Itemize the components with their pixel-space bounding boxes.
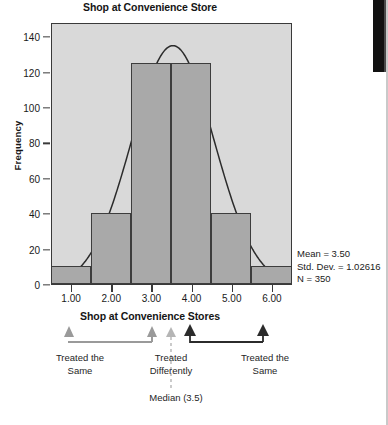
bottom-axis-title: Shop at Convenience Stores bbox=[0, 310, 300, 322]
x-tick-label: 3.00 bbox=[131, 293, 171, 304]
y-tick-mark bbox=[43, 72, 50, 73]
y-tick-label: 20 bbox=[6, 244, 40, 255]
histogram-bar bbox=[171, 63, 211, 284]
stat-mean: Mean = 3.50 bbox=[297, 248, 381, 261]
y-tick-mark bbox=[43, 37, 50, 38]
annotation-right-line1: Treated the bbox=[210, 352, 320, 365]
x-tick-mark bbox=[71, 285, 72, 292]
y-tick-label: 120 bbox=[6, 67, 40, 78]
stat-n: N = 350 bbox=[297, 273, 381, 286]
x-tick-mark bbox=[151, 285, 152, 292]
x-tick-mark bbox=[232, 285, 233, 292]
y-tick-mark bbox=[43, 107, 50, 108]
x-tick-label: 1.00 bbox=[51, 293, 91, 304]
histogram-bar bbox=[251, 266, 291, 284]
stat-stddev: Std. Dev. = 1.02616 bbox=[297, 261, 381, 274]
annotation-label-right: Treated the Same bbox=[210, 352, 320, 377]
y-tick-mark bbox=[43, 178, 50, 179]
scan-artifact-block bbox=[373, 0, 386, 72]
bracket-left-light bbox=[64, 326, 157, 343]
histogram-bar bbox=[211, 213, 251, 284]
histogram-bar bbox=[91, 213, 131, 284]
histogram-bar bbox=[131, 63, 171, 284]
y-tick-mark bbox=[43, 214, 50, 215]
y-tick-mark bbox=[43, 249, 50, 250]
x-tick-label: 4.00 bbox=[172, 293, 212, 304]
plot-area bbox=[51, 23, 292, 285]
chart-title: Shop at Convenience Store bbox=[0, 1, 300, 13]
x-tick-mark bbox=[192, 285, 193, 292]
y-tick-label: 40 bbox=[6, 209, 40, 220]
y-tick-label: 80 bbox=[6, 138, 40, 149]
statistics-box: Mean = 3.50 Std. Dev. = 1.02616 N = 350 bbox=[297, 248, 381, 286]
x-tick-mark bbox=[111, 285, 112, 292]
bracket-right-dark bbox=[184, 324, 269, 343]
x-tick-mark bbox=[272, 285, 273, 292]
y-tick-label: 140 bbox=[6, 32, 40, 43]
x-tick-label: 5.00 bbox=[212, 293, 252, 304]
y-tick-mark bbox=[43, 284, 50, 285]
plot-inner bbox=[52, 24, 291, 284]
bar-divider bbox=[171, 63, 172, 284]
y-tick-mark bbox=[43, 143, 50, 144]
annotation-right-line2: Same bbox=[210, 365, 320, 378]
x-tick-label: 2.00 bbox=[91, 293, 131, 304]
median-label: Median (3.5) bbox=[120, 392, 232, 403]
y-tick-label: 0 bbox=[6, 280, 40, 291]
histogram-bar bbox=[52, 266, 91, 284]
y-tick-label: 60 bbox=[6, 173, 40, 184]
x-tick-label: 6.00 bbox=[252, 293, 292, 304]
y-tick-label: 100 bbox=[6, 102, 40, 113]
chart-page: Shop at Convenience Store Frequency 0204… bbox=[0, 0, 388, 425]
